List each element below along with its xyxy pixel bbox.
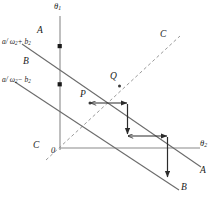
intercept-label-upper: a/ ω2+ b2	[2, 38, 31, 46]
horizontal-axis-label: θ2	[200, 139, 207, 149]
line-label-a-bottom: A	[200, 166, 206, 176]
intercept-dot-upper	[58, 44, 62, 48]
line-label-c-bottom: C	[33, 141, 39, 151]
point-label-p: P	[80, 90, 86, 100]
line-label-b-bottom: B	[181, 183, 187, 193]
vertical-axis-label: θ1	[54, 2, 61, 12]
line-cc-dashed	[46, 36, 180, 160]
line-label-b-top: B	[23, 57, 29, 67]
point-marker-p	[89, 102, 92, 105]
origin-label: 0	[51, 146, 55, 155]
diagram-canvas	[0, 0, 221, 200]
point-marker-q	[118, 85, 121, 88]
line-label-a-top: A	[37, 26, 43, 36]
intercept-label-lower: a/ ω2− b2	[2, 76, 31, 84]
phase-diagram-figure: θ1 θ2 0 a/ ω2+ b2 a/ ω2− b2 A B C C A B …	[0, 0, 221, 200]
line-label-c-top: C	[160, 30, 166, 40]
intercept-dot-lower	[58, 82, 62, 86]
point-label-q: Q	[110, 72, 117, 82]
